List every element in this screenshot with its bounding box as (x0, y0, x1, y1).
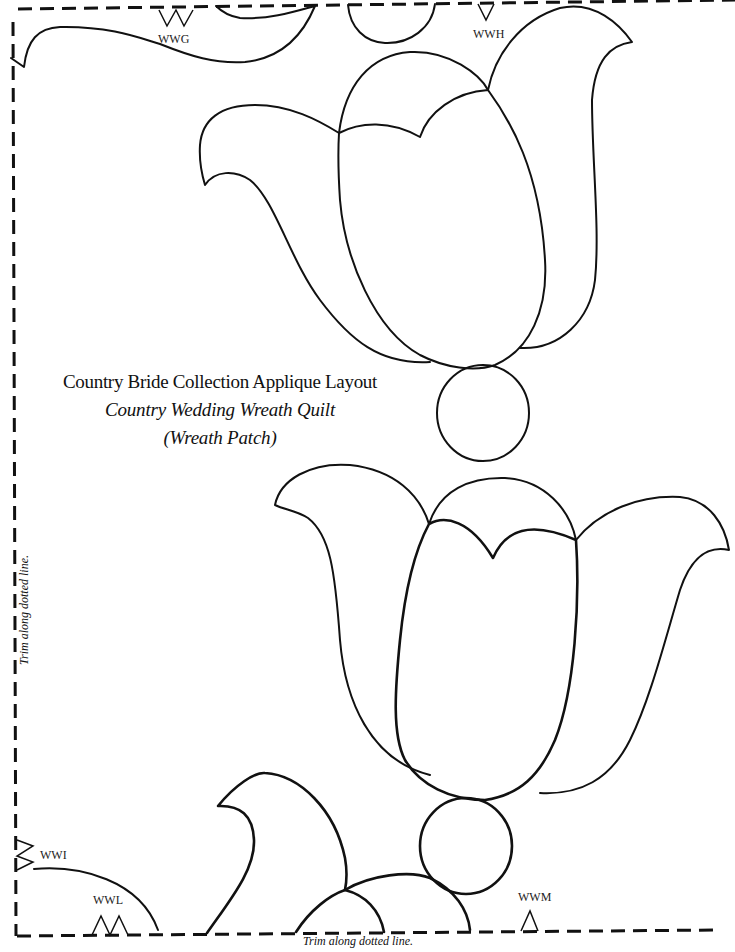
upper-tulip-center-bud (339, 52, 488, 133)
notch-wwm (521, 911, 538, 931)
placement-label-wwi: WWI (40, 848, 67, 863)
trim-border (13, 0, 735, 936)
trim-line-top (18, 0, 735, 9)
trim-line-left (13, 22, 16, 936)
notch-wwl (92, 916, 128, 935)
notch-wwi (17, 840, 33, 870)
placement-label-wwh: WWH (473, 27, 504, 42)
placement-label-wwg: WWG (158, 32, 189, 47)
upper-tulip-front-petal (338, 90, 545, 368)
placement-label-wwl: WWL (93, 893, 123, 908)
pattern-title: Country Bride Collection Applique Layout (30, 368, 410, 396)
notch-wwg (159, 10, 193, 26)
trim-instruction-bottom: Trim along dotted line. (303, 934, 413, 949)
lower-tulip-center-bud (429, 478, 576, 540)
pattern-section: (Wreath Patch) (30, 424, 410, 452)
upper-circle-shape (437, 365, 529, 461)
lower-tulip-front-petal (396, 520, 578, 800)
lower-tulip-right-petal (540, 497, 729, 793)
trim-instruction-side: Trim along dotted line. (17, 555, 32, 665)
pattern-subtitle: Country Wedding Wreath Quilt (30, 396, 410, 424)
lower-tulip (275, 465, 729, 800)
upper-tulip-left-petal (200, 105, 430, 362)
top-partial-circle-shape (348, 4, 435, 43)
applique-pattern-drawing (0, 0, 735, 952)
upper-tulip (200, 6, 632, 368)
pattern-title-block: Country Bride Collection Applique Layout… (30, 368, 410, 452)
upper-tulip-right-petal (488, 6, 632, 348)
lower-tulip-left-petal (275, 465, 430, 775)
bottom-arch-right (345, 874, 470, 930)
placement-notches (17, 4, 538, 935)
notch-wwh (478, 4, 494, 20)
bottom-left-leaf-shape (207, 773, 347, 933)
bottom-arch-left (296, 890, 384, 932)
placement-label-wwm: WWM (518, 890, 551, 905)
